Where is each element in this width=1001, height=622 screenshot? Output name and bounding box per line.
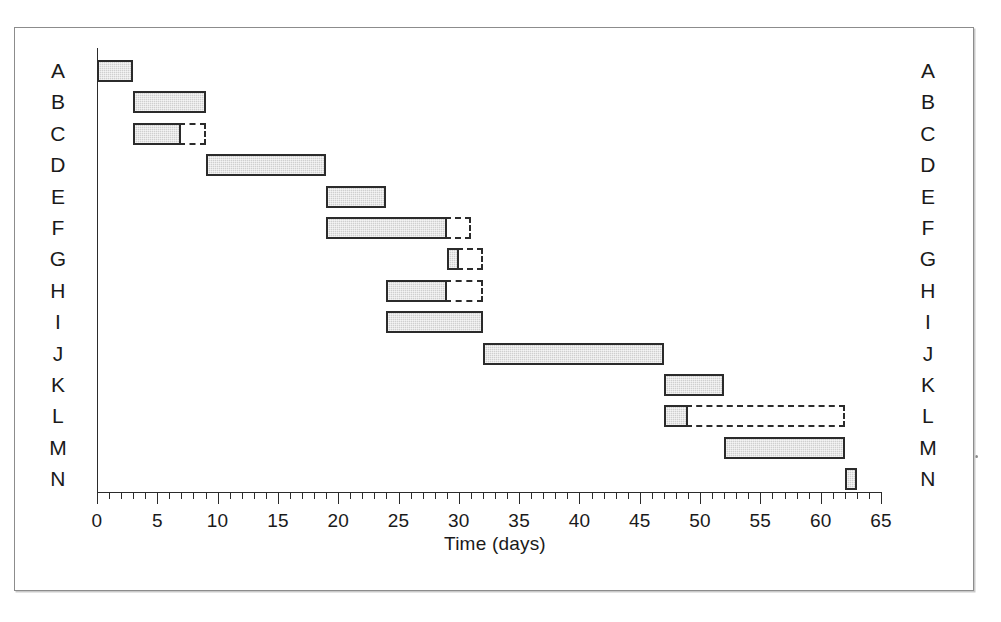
- row-label-right-e: E: [915, 185, 941, 209]
- row-label-right-g: G: [915, 247, 941, 271]
- x-tick-major: [760, 492, 761, 504]
- x-tick-major: [519, 492, 520, 504]
- x-tick-label: 65: [870, 510, 892, 532]
- row-label-left-b: B: [45, 90, 71, 114]
- x-tick-major: [459, 492, 460, 504]
- x-tick-minor: [833, 492, 834, 499]
- x-tick-minor: [483, 492, 484, 499]
- x-tick-major: [821, 492, 822, 504]
- x-tick-minor: [664, 492, 665, 499]
- gantt-bar-b[interactable]: [133, 91, 205, 113]
- x-tick-label: 0: [92, 510, 103, 532]
- x-tick-minor: [628, 492, 629, 499]
- x-tick-minor: [869, 492, 870, 499]
- gantt-bar-h[interactable]: [386, 280, 446, 302]
- x-tick-major: [640, 492, 641, 504]
- x-tick-minor: [809, 492, 810, 499]
- x-tick-major: [700, 492, 701, 504]
- row-label-right-b: B: [915, 90, 941, 114]
- x-tick-minor: [724, 492, 725, 499]
- row-label-right-l: L: [915, 404, 941, 428]
- gantt-bar-j[interactable]: [483, 343, 664, 365]
- row-label-right-f: F: [915, 216, 941, 240]
- x-tick-minor: [133, 492, 134, 499]
- gantt-chart-plot: 05101520253035404550556065 ABCDEFGHIJKLM…: [15, 28, 975, 592]
- row-label-left-e: E: [45, 185, 71, 209]
- x-tick-label: 5: [152, 510, 163, 532]
- x-tick-minor: [181, 492, 182, 499]
- x-tick-minor: [531, 492, 532, 499]
- x-tick-minor: [423, 492, 424, 499]
- x-tick-minor: [555, 492, 556, 499]
- x-tick-minor: [145, 492, 146, 499]
- x-tick-minor: [543, 492, 544, 499]
- x-tick-minor: [652, 492, 653, 499]
- x-tick-minor: [495, 492, 496, 499]
- x-tick-minor: [447, 492, 448, 499]
- x-tick-minor: [350, 492, 351, 499]
- x-tick-minor: [290, 492, 291, 499]
- x-tick-minor: [676, 492, 677, 499]
- gantt-bar-d[interactable]: [206, 154, 327, 176]
- gantt-float-bar-c[interactable]: [179, 123, 205, 145]
- x-tick-minor: [772, 492, 773, 499]
- x-tick-label: 25: [388, 510, 410, 532]
- cut-off-header-text: [0, 0, 1001, 5]
- gantt-bar-f[interactable]: [326, 217, 447, 239]
- x-tick-minor: [169, 492, 170, 499]
- gantt-float-bar-g[interactable]: [457, 248, 483, 270]
- gantt-bar-c[interactable]: [133, 123, 181, 145]
- gantt-bar-m[interactable]: [724, 437, 845, 459]
- y-axis-line: [97, 48, 98, 492]
- x-tick-minor: [507, 492, 508, 499]
- x-axis-line: [97, 492, 881, 493]
- x-tick-minor: [193, 492, 194, 499]
- gantt-float-bar-l[interactable]: [686, 405, 845, 427]
- x-tick-minor: [386, 492, 387, 499]
- x-tick-minor: [302, 492, 303, 499]
- row-label-left-d: D: [45, 153, 71, 177]
- row-label-left-g: G: [45, 247, 71, 271]
- row-label-left-i: I: [45, 310, 71, 334]
- x-tick-minor: [242, 492, 243, 499]
- figure-frame: 05101520253035404550556065 ABCDEFGHIJKLM…: [14, 27, 974, 591]
- x-tick-label: 40: [569, 510, 591, 532]
- gantt-bar-i[interactable]: [386, 311, 482, 333]
- x-tick-minor: [748, 492, 749, 499]
- x-tick-minor: [374, 492, 375, 499]
- gantt-float-bar-f[interactable]: [445, 217, 471, 239]
- x-tick-major: [338, 492, 339, 504]
- x-tick-major: [97, 492, 98, 504]
- x-tick-major: [278, 492, 279, 504]
- x-tick-minor: [435, 492, 436, 499]
- x-tick-label: 30: [448, 510, 470, 532]
- x-tick-label: 60: [810, 510, 832, 532]
- x-tick-minor: [326, 492, 327, 499]
- gantt-bar-n[interactable]: [845, 468, 857, 490]
- x-tick-label: 35: [508, 510, 530, 532]
- row-label-left-j: J: [45, 342, 71, 366]
- row-label-left-f: F: [45, 216, 71, 240]
- x-tick-label: 20: [327, 510, 349, 532]
- gantt-bar-k[interactable]: [664, 374, 724, 396]
- gantt-float-bar-h[interactable]: [445, 280, 483, 302]
- gantt-bar-e[interactable]: [326, 186, 386, 208]
- x-tick-minor: [736, 492, 737, 499]
- row-label-left-k: K: [45, 373, 71, 397]
- row-label-right-i: I: [915, 310, 941, 334]
- x-tick-major: [157, 492, 158, 504]
- x-tick-minor: [121, 492, 122, 499]
- x-tick-label: 55: [750, 510, 772, 532]
- x-tick-minor: [797, 492, 798, 499]
- x-tick-minor: [857, 492, 858, 499]
- x-tick-minor: [688, 492, 689, 499]
- gantt-bar-a[interactable]: [97, 60, 133, 82]
- gantt-bar-l[interactable]: [664, 405, 688, 427]
- row-label-left-n: N: [45, 467, 71, 491]
- x-tick-minor: [411, 492, 412, 499]
- x-tick-minor: [109, 492, 110, 499]
- x-tick-minor: [845, 492, 846, 499]
- x-tick-minor: [604, 492, 605, 499]
- row-label-right-n: N: [915, 467, 941, 491]
- x-tick-minor: [230, 492, 231, 499]
